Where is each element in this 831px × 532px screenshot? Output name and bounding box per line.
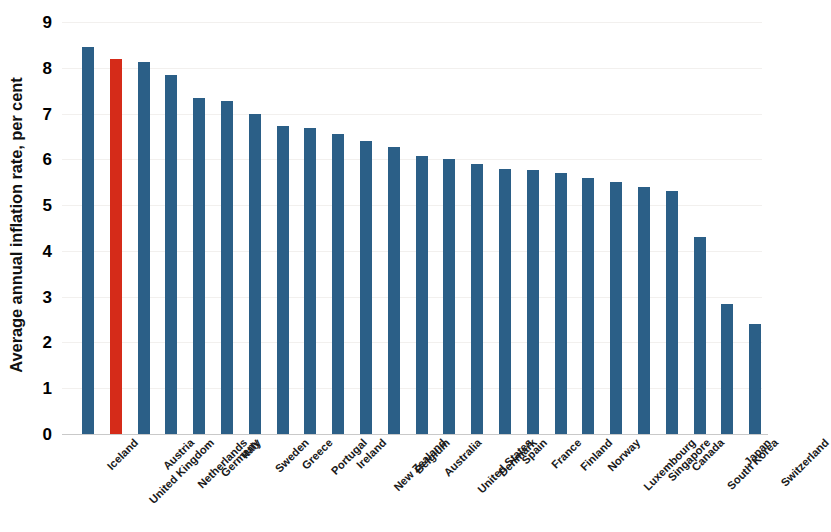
x-axis-baseline xyxy=(62,434,768,435)
y-axis-tick: 3 xyxy=(43,288,52,305)
bar xyxy=(610,182,622,434)
bar xyxy=(666,191,678,434)
plot-area xyxy=(62,22,762,434)
bar xyxy=(110,59,122,434)
bar xyxy=(249,114,261,434)
bar xyxy=(527,170,539,434)
y-axis-tick: 6 xyxy=(43,151,52,168)
y-axis-tick: 9 xyxy=(43,14,52,31)
x-axis-tick: Switzerland xyxy=(779,437,831,489)
x-axis-tick-labels: IcelandUnited KingdomAustriaNetherlandsG… xyxy=(62,437,768,532)
y-axis-tick: 8 xyxy=(43,59,52,76)
bar xyxy=(138,62,150,434)
bar xyxy=(332,134,344,434)
bar xyxy=(165,75,177,434)
bar xyxy=(82,47,94,434)
y-axis-tick: 0 xyxy=(43,426,52,443)
bar xyxy=(193,98,205,434)
bar xyxy=(638,187,650,434)
y-axis-tick-labels: 9876543210 xyxy=(24,0,52,532)
bar xyxy=(277,126,289,434)
bar xyxy=(555,173,567,434)
bar xyxy=(582,178,594,434)
bar xyxy=(304,128,316,434)
y-axis-tick: 4 xyxy=(43,242,52,259)
bar xyxy=(360,141,372,434)
x-axis-tick: Iceland xyxy=(105,437,140,472)
y-axis-tick: 7 xyxy=(43,105,52,122)
bar xyxy=(721,304,733,434)
bar xyxy=(749,324,761,434)
bar xyxy=(499,169,511,435)
bar xyxy=(416,156,428,434)
y-axis-tick: 5 xyxy=(43,197,52,214)
bar xyxy=(443,159,455,434)
bar xyxy=(694,237,706,434)
bar xyxy=(221,101,233,434)
bar xyxy=(471,164,483,434)
y-axis-tick: 2 xyxy=(43,334,52,351)
y-axis-tick: 1 xyxy=(43,380,52,397)
bars xyxy=(62,22,762,434)
bar xyxy=(388,147,400,434)
